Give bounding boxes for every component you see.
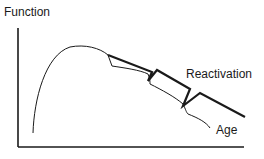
y-axis-label: Function [4,6,50,18]
age-label: Age [216,124,237,136]
reactivation-label: Reactivation [186,68,252,80]
reactivation-curve [108,55,245,117]
